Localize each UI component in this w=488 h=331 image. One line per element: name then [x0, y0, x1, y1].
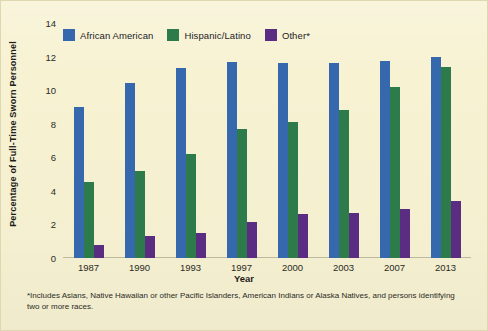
y-axis-tick-label: 14 [45, 18, 56, 29]
x-axis-tick-label: 2000 [282, 262, 303, 273]
bar [94, 245, 104, 258]
x-axis-tick-label: 2007 [384, 262, 405, 273]
bar [441, 67, 451, 258]
bar [247, 222, 257, 258]
bar [227, 62, 237, 258]
bar [451, 201, 461, 258]
bar-group: 2007 [369, 23, 420, 258]
bar [237, 129, 247, 258]
chart-footnote: *Includes Asians, Native Hawaiian or oth… [27, 290, 469, 313]
y-axis-tick-label: 10 [45, 85, 56, 96]
plot-area: 0246810121419871990199319972000200320072… [63, 23, 471, 258]
bar [84, 182, 94, 258]
bar [390, 87, 400, 258]
bar [329, 63, 339, 258]
bar [349, 213, 359, 258]
y-axis-title: Percentage of Full-Time Sworn Personnel [5, 1, 21, 267]
bar-group: 1990 [114, 23, 165, 258]
bar [196, 233, 206, 258]
y-axis-tick-label: 2 [51, 219, 56, 230]
x-axis-tick-label: 1987 [78, 262, 99, 273]
bar [298, 214, 308, 258]
bar [380, 61, 390, 258]
bar [176, 68, 186, 258]
x-axis-tick-label: 2013 [435, 262, 456, 273]
y-axis-tick-label: 12 [45, 51, 56, 62]
bar-group: 2013 [420, 23, 471, 258]
bar [400, 209, 410, 258]
y-axis-title-text: Percentage of Full-Time Sworn Personnel [8, 41, 18, 227]
bar-group: 1997 [216, 23, 267, 258]
y-axis-tick-label: 4 [51, 185, 56, 196]
bar [125, 83, 135, 258]
bar [145, 236, 155, 258]
x-axis-tick-label: 1997 [231, 262, 252, 273]
y-axis-tick-label: 0 [51, 253, 56, 264]
bar [74, 107, 84, 258]
x-axis-tick-label: 1990 [129, 262, 150, 273]
x-axis-tick-label: 2003 [333, 262, 354, 273]
bar-group: 2003 [318, 23, 369, 258]
bar [431, 57, 441, 258]
x-axis-tick-label: 1993 [180, 262, 201, 273]
y-axis-tick-label: 8 [51, 118, 56, 129]
bar-group: 1987 [63, 23, 114, 258]
bar [135, 171, 145, 258]
bar [339, 110, 349, 258]
y-axis-tick-label: 6 [51, 152, 56, 163]
bar [186, 154, 196, 258]
bar-group: 1993 [165, 23, 216, 258]
bar [288, 122, 298, 258]
chart-figure: African AmericanHispanic/LatinoOther* Pe… [0, 0, 488, 331]
bar [278, 63, 288, 258]
bar-group: 2000 [267, 23, 318, 258]
x-axis-title: Year [1, 273, 487, 284]
